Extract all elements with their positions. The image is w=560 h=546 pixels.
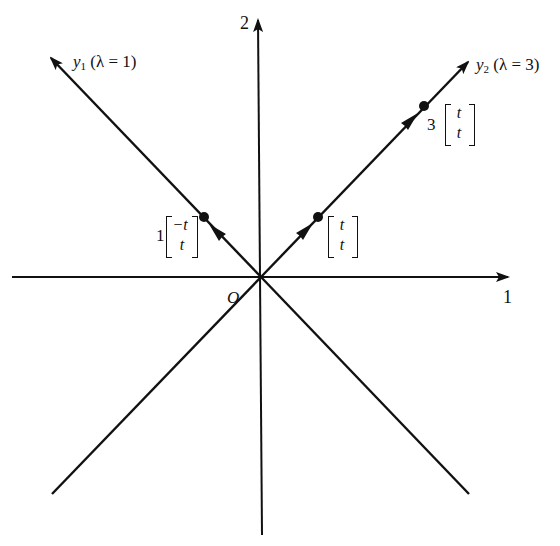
vector-label-y2-scaled: 3 t t	[427, 104, 477, 148]
vector-top: t	[449, 104, 469, 122]
y1-line-label: y1 (λ = 1)	[73, 53, 136, 72]
vector-top: t	[332, 216, 352, 234]
y2-eigenline-upper	[261, 62, 468, 277]
y1-eigenline-lower	[261, 277, 469, 494]
y2-eigenline-lower	[52, 277, 261, 494]
vector-coef: 1	[156, 226, 165, 246]
diagram-lines	[0, 0, 560, 546]
vector-label-y2: t t	[328, 216, 358, 260]
vertical-axis-label: 2	[240, 14, 249, 32]
y2-eigenvalue: (λ = 3)	[493, 55, 539, 74]
point-dot-y2	[313, 212, 323, 222]
y1-eigenvalue: (λ = 1)	[90, 52, 136, 71]
y1-sub: 1	[81, 60, 87, 72]
horizontal-axis-label: 1	[503, 288, 512, 306]
phase-portrait-diagram: 2 1 O y1 (λ = 1) y2 (λ = 3) 1 −t t t t 3…	[0, 0, 560, 546]
vector-top: −t	[170, 216, 190, 234]
vector-coef: 3	[427, 115, 436, 135]
y2-line-label: y2 (λ = 3)	[476, 56, 539, 75]
right-bracket	[192, 216, 198, 258]
right-bracket	[352, 216, 358, 258]
y2-sub: 2	[484, 63, 490, 75]
vector-bottom: t	[449, 124, 469, 142]
origin-label: O	[227, 289, 239, 306]
vector-bottom: t	[332, 236, 352, 254]
vector-label-y1: 1 −t t	[156, 216, 202, 260]
right-bracket	[469, 104, 475, 146]
y1-var: y	[73, 52, 81, 71]
vector-bottom: t	[172, 236, 192, 254]
y2-var: y	[476, 55, 484, 74]
